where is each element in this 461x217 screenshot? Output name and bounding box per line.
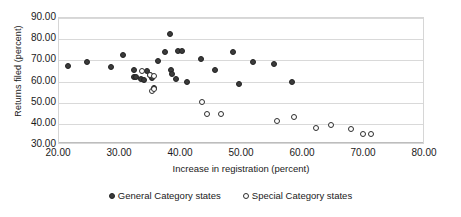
data-point — [348, 126, 354, 132]
x-axis-title: Increase in registration (percent) — [58, 163, 424, 174]
x-axis-line — [59, 142, 423, 143]
y-tick-label: 80.00 — [18, 33, 56, 43]
legend-item[interactable]: General Category states — [109, 190, 221, 201]
gridline-y-40.00 — [59, 124, 423, 125]
x-tick-label: 70.00 — [333, 147, 393, 159]
legend-label: Special Category states — [252, 190, 352, 201]
x-tick-label: 30.00 — [89, 147, 149, 159]
legend-item[interactable]: Special Category states — [243, 190, 352, 201]
data-point — [155, 58, 161, 64]
data-point — [173, 76, 179, 82]
data-point — [184, 79, 190, 85]
data-point — [250, 59, 256, 65]
x-axis-tick-labels: 20.0030.0040.0050.0060.0070.0080.00 — [0, 147, 461, 161]
data-point — [204, 111, 210, 117]
data-point — [167, 31, 173, 37]
x-tick-label: 20.00 — [28, 147, 88, 159]
data-point — [198, 56, 204, 62]
x-tick-label: 80.00 — [394, 147, 454, 159]
data-point — [65, 63, 71, 69]
y-tick-label: 90.00 — [18, 12, 56, 22]
data-point — [218, 111, 224, 117]
x-tick-label: 60.00 — [272, 147, 332, 159]
data-point — [230, 49, 236, 55]
scatter-chart: Returns filed (percent) 30.0040.0050.006… — [0, 0, 461, 217]
data-point — [313, 125, 319, 131]
y-tick-label: 50.00 — [18, 97, 56, 107]
y-axis-tick-labels: 30.0040.0050.0060.0070.0080.0090.00 — [16, 0, 56, 217]
legend-label: General Category states — [118, 190, 221, 201]
gridline-y-80.00 — [59, 39, 423, 40]
gridline-y-70.00 — [59, 60, 423, 61]
gridline-y-90.00 — [59, 18, 423, 19]
x-tick-label: 40.00 — [150, 147, 210, 159]
data-point — [271, 61, 277, 67]
y-tick-label: 70.00 — [18, 54, 56, 64]
gridline-y-50.00 — [59, 103, 423, 104]
data-point — [108, 64, 114, 70]
y-tick-label: 40.00 — [18, 118, 56, 128]
data-point — [212, 67, 218, 73]
data-point — [291, 114, 297, 120]
data-point — [236, 81, 242, 87]
filled-circle-icon — [109, 193, 115, 199]
data-point — [131, 67, 137, 73]
data-point — [151, 73, 157, 79]
data-point — [368, 131, 374, 137]
data-point — [179, 48, 185, 54]
data-point — [289, 79, 295, 85]
chart-legend: General Category statesSpecial Category … — [0, 190, 461, 201]
data-point — [274, 118, 280, 124]
y-tick-label: 60.00 — [18, 76, 56, 86]
data-point — [199, 99, 205, 105]
data-point — [151, 86, 157, 92]
open-circle-icon — [243, 193, 249, 199]
data-point — [162, 49, 168, 55]
data-point — [360, 131, 366, 137]
data-point — [120, 52, 126, 58]
data-point — [328, 122, 334, 128]
plot-area — [58, 17, 424, 144]
data-point — [84, 59, 90, 65]
data-point — [139, 68, 145, 74]
x-tick-label: 50.00 — [211, 147, 271, 159]
